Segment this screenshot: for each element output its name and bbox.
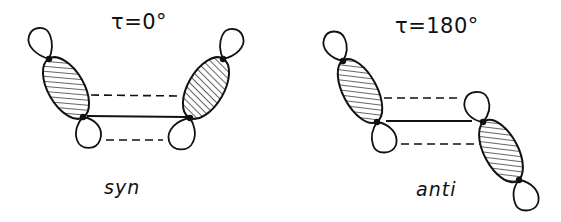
- hatched-lobe-icon: [329, 52, 392, 130]
- atom-node-icon: [187, 115, 193, 121]
- anti-caption: anti: [416, 178, 456, 200]
- syn-caption: syn: [104, 176, 140, 198]
- small-lobe-icon: [220, 29, 243, 59]
- atom-node-icon: [46, 56, 52, 62]
- atom-node-icon: [340, 58, 346, 64]
- hatched-lobe-icon: [173, 50, 238, 127]
- anti-left-orbital: [323, 32, 396, 153]
- small-lobe-icon: [514, 180, 539, 211]
- overlap-dashed-line-upper: [91, 95, 180, 96]
- anti-title: τ=180°: [395, 14, 479, 38]
- hatched-lobe-icon: [33, 50, 98, 127]
- syn-title: τ=0°: [111, 10, 167, 34]
- small-lobe-icon: [323, 32, 346, 62]
- hatched-lobe-icon: [470, 113, 532, 189]
- atom-node-icon: [220, 56, 226, 62]
- sigma-bond-line: [87, 116, 187, 117]
- small-lobe-icon: [76, 117, 101, 148]
- atom-node-icon: [516, 177, 522, 183]
- atom-node-icon: [80, 114, 86, 120]
- small-lobe-icon: [372, 122, 397, 153]
- syn-left-orbital: [28, 28, 101, 148]
- atom-node-icon: [480, 119, 486, 125]
- small-lobe-icon: [28, 28, 51, 59]
- syn-panel: [28, 28, 243, 149]
- atom-node-icon: [374, 119, 380, 125]
- syn-right-orbital: [169, 29, 244, 149]
- small-lobe-icon: [169, 118, 195, 149]
- small-lobe-icon: [464, 92, 489, 122]
- anti-right-orbital: [464, 92, 538, 211]
